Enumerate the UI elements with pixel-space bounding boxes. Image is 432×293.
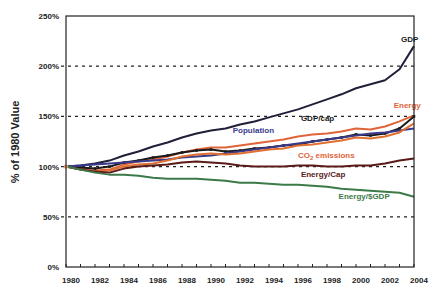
- series-label: Population: [233, 126, 274, 135]
- series-label: Energy/Cap: [301, 170, 346, 179]
- series-label: Energy: [394, 101, 422, 110]
- series-line-gdp: [66, 46, 414, 166]
- plot-border: [66, 16, 414, 267]
- data-point: [94, 167, 97, 170]
- series-label: Energy/$GDP: [339, 192, 391, 201]
- data-point: [195, 149, 198, 152]
- data-point: [108, 165, 111, 168]
- series-label: GDP/cap: [301, 114, 334, 123]
- y-tick-label: 150%: [39, 112, 59, 121]
- x-tick-label: 2004: [410, 276, 428, 285]
- x-tick-label: 1988: [178, 276, 196, 285]
- x-tick-label: 2000: [352, 276, 370, 285]
- line-chart: % of 1980 Value 0%50%100%150%200%250% 19…: [0, 0, 432, 293]
- y-axis-title: % of 1980 Value: [9, 101, 21, 184]
- y-tick-label: 100%: [39, 163, 59, 172]
- data-point: [181, 151, 184, 154]
- y-tick-label: 50%: [43, 213, 59, 222]
- x-tick-label: 2002: [381, 276, 399, 285]
- x-tick-label: 1994: [265, 276, 283, 285]
- x-tick-label: 1986: [149, 276, 167, 285]
- y-tick-label: 0%: [47, 263, 59, 272]
- data-point: [210, 148, 213, 151]
- y-axis-ticks: 0%50%100%150%200%250%: [39, 12, 59, 272]
- x-tick-label: 1984: [120, 276, 138, 285]
- series-label: CO2 emissions: [298, 151, 355, 161]
- data-point: [166, 154, 169, 157]
- y-tick-label: 250%: [39, 12, 59, 21]
- x-tick-label: 1982: [91, 276, 109, 285]
- series-labels: GDPEnergyGDP/capPopulationCO2 emissionsE…: [233, 35, 422, 201]
- x-tick-label: 1992: [236, 276, 254, 285]
- x-tick-label: 1998: [323, 276, 341, 285]
- plot-frame: [66, 16, 414, 267]
- data-point: [152, 156, 155, 159]
- series-lines: [64, 46, 416, 197]
- x-tick-label: 1980: [62, 276, 80, 285]
- x-tick-label: 1990: [207, 276, 225, 285]
- y-tick-label: 200%: [39, 62, 59, 71]
- series-label: GDP: [401, 35, 419, 44]
- x-tick-label: 1996: [294, 276, 312, 285]
